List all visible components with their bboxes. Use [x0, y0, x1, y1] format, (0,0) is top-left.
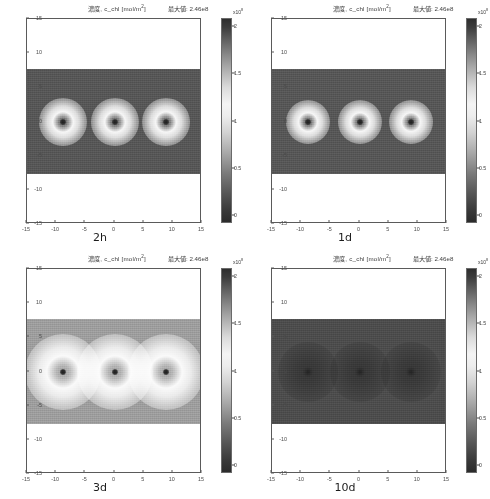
y-axis-tick-label: 10: [20, 49, 42, 55]
colorbar-tick-label: 1.5: [479, 320, 486, 326]
colorbar-tick-mark: [477, 120, 480, 121]
colorbar-tick-mark: [477, 465, 480, 466]
colorbar: x10821.510.50: [466, 18, 490, 223]
x-axis-tick-mark: [387, 220, 388, 223]
subplot-caption: 2h: [0, 231, 200, 244]
y-axis-tick-label: -5: [265, 152, 287, 158]
plot-axes: [271, 268, 446, 473]
y-axis-tick-label: 5: [265, 333, 287, 339]
y-axis-tick-label: 5: [20, 83, 42, 89]
y-axis-tick-label: -10: [20, 436, 42, 442]
y-axis-tick-label: 0: [265, 368, 287, 374]
y-axis-tick-mark: [271, 18, 274, 19]
colorbar-exponent-label: x108: [478, 8, 488, 15]
colorbar-tick-mark: [477, 276, 480, 277]
panel-title-text: 濃度, c_chl [mol/m: [333, 255, 386, 262]
colorbar-exponent-base: x10: [233, 259, 241, 265]
y-axis-tick-label: 10: [265, 49, 287, 55]
colorbar-tick-mark: [232, 370, 235, 371]
colorbar: x10821.510.50: [466, 268, 490, 473]
y-axis-tick-mark: [26, 154, 29, 155]
x-axis-tick-mark: [446, 220, 447, 223]
colorbar-exponent-label: x108: [478, 258, 488, 265]
x-axis-tick-mark: [271, 220, 272, 223]
x-axis-tick-mark: [329, 220, 330, 223]
colorbar-exponent-label: x108: [233, 258, 243, 265]
panel-title: 濃度, c_chl [mol/m2]: [307, 254, 417, 263]
y-axis-tick-label: 15: [265, 265, 287, 271]
panel-title-text: 濃度, c_chl [mol/m: [88, 255, 141, 262]
subplot-caption: 1d: [245, 231, 445, 244]
max-value-label: 最大値: 2.46e8: [168, 4, 242, 13]
panel-title: 濃度, c_chl [mol/m2]: [62, 254, 172, 263]
y-axis-tick-label: -10: [20, 186, 42, 192]
max-value-label: 最大値: 2.46e8: [168, 254, 242, 263]
colorbar-tick-mark: [232, 465, 235, 466]
panel-title-tail: ]: [389, 255, 391, 262]
y-axis-tick-mark: [271, 336, 274, 337]
plot-axes: [26, 268, 201, 473]
y-axis-tick-mark: [271, 52, 274, 53]
colorbar-tick-label: 0.5: [479, 165, 486, 171]
subplot-grid: 濃度, c_chl [mol/m2]最大値: 2.46e8151050-5-10…: [0, 0, 490, 499]
panel-title-exponent: 2: [386, 254, 389, 259]
y-axis-tick-label: 5: [265, 83, 287, 89]
y-axis-tick-label: -10: [265, 436, 287, 442]
y-axis-tick-label: -10: [265, 186, 287, 192]
y-axis-tick-label: 0: [265, 118, 287, 124]
colorbar-tick-label: 0.5: [479, 415, 486, 421]
colorbar-tick-mark: [232, 417, 235, 418]
x-axis-tick-mark: [84, 220, 85, 223]
y-axis-tick-mark: [271, 188, 274, 189]
colorbar-tick-mark: [477, 417, 480, 418]
colorbar-tick-mark: [232, 215, 235, 216]
heatmap-field: [272, 69, 446, 174]
panel-title-text: 濃度, c_chl [mol/m: [333, 5, 386, 12]
field-noise-texture: [27, 69, 201, 174]
colorbar-tick-mark: [477, 370, 480, 371]
colorbar-exponent-base: x10: [478, 9, 486, 15]
panel-title-text: 濃度, c_chl [mol/m: [88, 5, 141, 12]
x-axis-tick-mark: [416, 220, 417, 223]
subplot-caption: 3d: [0, 481, 200, 494]
colorbar-tick-mark: [232, 26, 235, 27]
x-axis-tick-mark: [55, 470, 56, 473]
colorbar-tick-label: 0.5: [234, 415, 241, 421]
field-noise-texture: [272, 319, 446, 424]
colorbar-gradient: [466, 18, 477, 223]
x-axis-tick-mark: [113, 220, 114, 223]
colorbar-tick-label: 1.5: [479, 70, 486, 76]
y-axis-tick-mark: [271, 438, 274, 439]
y-axis-tick-mark: [26, 404, 29, 405]
colorbar: x10821.510.50: [221, 268, 245, 473]
y-axis-tick-label: 10: [265, 299, 287, 305]
colorbar-tick-label: 1.5: [234, 70, 241, 76]
colorbar-tick-mark: [232, 323, 235, 324]
y-axis-tick-mark: [26, 120, 29, 121]
y-axis-tick-mark: [26, 370, 29, 371]
colorbar-tick-label: 0.5: [234, 165, 241, 171]
subplot-3d: 濃度, c_chl [mol/m2]最大値: 2.46e8151050-5-10…: [0, 250, 245, 499]
colorbar-gradient: [221, 268, 232, 473]
y-axis-tick-mark: [26, 336, 29, 337]
y-axis-tick-mark: [26, 268, 29, 269]
heatmap-field: [27, 319, 201, 424]
field-noise-texture: [27, 319, 201, 424]
panel-title-exponent: 2: [141, 4, 144, 9]
colorbar-exponent-base: x10: [233, 9, 241, 15]
x-axis-tick-mark: [358, 220, 359, 223]
y-axis-tick-mark: [271, 302, 274, 303]
colorbar-tick-mark: [232, 73, 235, 74]
y-axis-tick-mark: [271, 86, 274, 87]
colorbar-gradient: [466, 268, 477, 473]
colorbar-tick-mark: [477, 73, 480, 74]
max-value-label: 最大値: 2.46e8: [413, 4, 487, 13]
x-axis-tick-mark: [329, 470, 330, 473]
colorbar-tick-mark: [232, 120, 235, 121]
x-axis-tick-mark: [201, 220, 202, 223]
x-axis-tick-mark: [446, 470, 447, 473]
panel-title: 濃度, c_chl [mol/m2]: [307, 4, 417, 13]
colorbar-tick-mark: [232, 276, 235, 277]
y-axis-tick-label: -5: [20, 402, 42, 408]
y-axis-tick-label: -5: [20, 152, 42, 158]
